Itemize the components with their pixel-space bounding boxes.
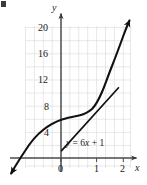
y-tick-12: 12	[38, 75, 48, 85]
curve-start-arrow	[11, 170, 13, 174]
x-axis-label: x	[135, 163, 139, 173]
equation-suffix: + 1	[89, 138, 104, 148]
x-tick-2: 2	[120, 164, 125, 174]
y-tick-4: 4	[44, 128, 49, 138]
y-tick-16: 16	[38, 49, 48, 59]
y-tick-8: 8	[44, 102, 49, 112]
plot-canvas	[0, 0, 147, 185]
x-tick-1: 1	[94, 164, 99, 174]
cubic-curve	[12, 21, 130, 173]
y-axis-label: y	[52, 3, 56, 13]
x-tick-0: 0	[58, 164, 63, 174]
equation-body: = 6	[70, 138, 85, 148]
graph-figure: 20 16 12 8 4 0 1 2 y x y = 6x + 1	[0, 0, 147, 185]
y-tick-20: 20	[38, 23, 48, 33]
tangent-equation-label: y = 6x + 1	[66, 139, 104, 149]
